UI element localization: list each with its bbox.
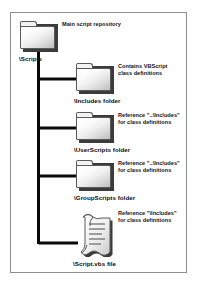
folder-body — [76, 117, 111, 140]
node-label-scripts: \Scripts — [19, 55, 42, 63]
annotation-line: Reference "..\Includes" — [118, 112, 180, 119]
annotation-groupscripts: Reference "..\Includes" for class defini… — [118, 160, 180, 174]
folder-icon-scripts[interactable] — [20, 21, 58, 52]
annotation-line: Main script repository — [62, 21, 121, 28]
annotation-line: class definitions — [118, 70, 167, 77]
folder-structure-diagram: \Scripts Main script repository \Include… — [0, 0, 199, 286]
annotation-line: for class definitions — [118, 119, 180, 126]
folder-body — [76, 68, 111, 91]
annotation-line: Reference "\Includes" — [118, 210, 177, 217]
folder-icon-userscripts[interactable] — [76, 112, 114, 143]
annotation-userscripts: Reference "..\Includes" for class defini… — [118, 112, 180, 126]
annotation-line: Contains VBScript — [118, 63, 167, 70]
folder-body — [76, 165, 111, 188]
script-file-icon[interactable] — [75, 209, 115, 257]
folder-body — [20, 26, 55, 49]
folder-icon-includes[interactable] — [76, 63, 114, 94]
node-label-userscripts: \UserScripts folder — [74, 146, 130, 154]
node-label-script-vbs: \Script.vbs file — [73, 260, 116, 268]
annotation-includes: Contains VBScript class definitions — [118, 63, 167, 77]
annotation-line: for class definitions — [118, 167, 180, 174]
annotation-line: for class definitions — [118, 217, 177, 224]
folder-icon-groupscripts[interactable] — [76, 160, 114, 191]
node-label-includes: \Includes folder — [74, 97, 121, 105]
node-label-groupscripts: \GroupScripts folder — [74, 194, 135, 202]
annotation-scripts: Main script repository — [62, 21, 121, 28]
annotation-line: Reference "..\Includes" — [118, 160, 180, 167]
annotation-script-vbs: Reference "\Includes" for class definiti… — [118, 210, 177, 224]
